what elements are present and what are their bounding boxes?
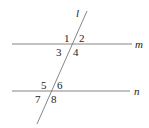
angle-4: 4: [73, 46, 79, 58]
angle-6: 6: [57, 79, 63, 91]
angle-8: 8: [51, 93, 57, 105]
label-n: n: [134, 85, 140, 97]
angle-2: 2: [79, 32, 85, 44]
label-m: m: [135, 38, 143, 50]
angle-5: 5: [41, 79, 47, 91]
diagram-canvas: l m n 1 2 3 4 5 6 7 8: [0, 0, 149, 128]
angle-7: 7: [35, 93, 41, 105]
transversal-l: [37, 11, 87, 124]
angle-1: 1: [64, 32, 70, 44]
label-l: l: [76, 7, 79, 19]
angle-3: 3: [56, 46, 62, 58]
